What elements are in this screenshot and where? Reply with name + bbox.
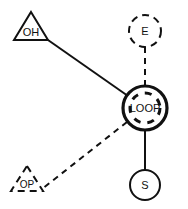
node-loop[interactable]: LOOP (123, 86, 167, 130)
node-op[interactable]: OP (11, 166, 43, 191)
node-layer: OH E LOOP S OP (11, 12, 167, 200)
node-s-label: S (141, 179, 148, 191)
node-oh-label: OH (23, 26, 40, 38)
node-oh[interactable]: OH (14, 12, 48, 40)
node-op-label: OP (20, 179, 35, 190)
graph-svg: OH E LOOP S OP (0, 0, 188, 209)
node-e[interactable]: E (129, 15, 161, 47)
node-e-label: E (141, 25, 148, 37)
edge-loop-to-op (42, 122, 127, 189)
diagram-canvas: OH E LOOP S OP (0, 0, 188, 209)
node-loop-label: LOOP (130, 102, 161, 114)
node-s[interactable]: S (130, 170, 160, 200)
edge-oh-to-loop (48, 40, 128, 96)
